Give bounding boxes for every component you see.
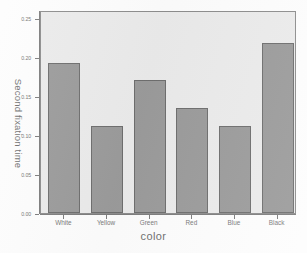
y-tick-mark <box>35 19 39 20</box>
plot-area <box>40 11 296 214</box>
bar-chart-figure: 0.000.050.100.150.200.25 WhiteYellowGree… <box>0 0 307 253</box>
bar-white <box>48 63 80 213</box>
bar-green <box>134 80 166 213</box>
bar-blue <box>219 126 251 213</box>
y-tick-mark <box>35 175 39 176</box>
y-tick-label: 0.00 <box>1 211 31 217</box>
bar-yellow <box>91 126 123 213</box>
x-tick-label-white: White <box>55 219 71 226</box>
x-tick-label-black: Black <box>269 219 285 226</box>
y-tick-mark <box>35 214 39 215</box>
bar-series <box>41 12 295 213</box>
x-axis-line <box>40 214 296 215</box>
y-tick-mark <box>35 136 39 137</box>
x-tick-label-red: Red <box>185 219 197 226</box>
y-tick-mark <box>35 58 39 59</box>
x-tick-label-blue: Blue <box>228 219 241 226</box>
x-tick-label-green: Green <box>140 219 158 226</box>
y-axis-line <box>39 11 40 214</box>
y-tick-mark <box>35 97 39 98</box>
bar-black <box>262 43 294 213</box>
bar-red <box>176 108 208 213</box>
x-axis-title: color <box>0 230 307 242</box>
y-axis-title: Second fixation time <box>13 44 24 204</box>
y-tick-label: 0.25 <box>1 16 31 22</box>
x-tick-label-yellow: Yellow <box>97 219 115 226</box>
